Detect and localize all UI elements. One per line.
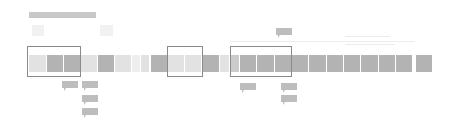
highlight-span-3 <box>230 46 292 77</box>
callout-top <box>276 28 292 35</box>
token-block <box>416 55 432 72</box>
token-block <box>141 55 149 72</box>
token-block <box>309 55 326 72</box>
token-block <box>344 55 360 72</box>
token-block <box>132 55 140 72</box>
faint-text-line-2 <box>345 44 395 45</box>
token-block <box>292 55 308 72</box>
callout-span1-d <box>82 108 98 115</box>
callout-span3-b <box>281 83 297 90</box>
title-bar <box>29 12 96 18</box>
token-block <box>396 55 412 72</box>
token-block <box>327 55 343 72</box>
ghost-square-right <box>100 25 113 36</box>
highlight-span-2 <box>167 46 203 77</box>
faint-text-line-1 <box>345 36 390 37</box>
callout-span3-c <box>281 95 297 102</box>
callout-span1-a <box>62 81 78 88</box>
callout-span1-c <box>82 95 98 102</box>
highlight-span-1 <box>27 46 81 77</box>
token-block <box>361 55 378 72</box>
callout-span1-b <box>82 81 98 88</box>
token-block <box>220 55 229 72</box>
faint-guide-line <box>230 41 415 42</box>
token-block <box>203 55 219 72</box>
token-block <box>115 55 131 72</box>
token-block <box>151 55 167 72</box>
ghost-square-left <box>32 25 44 36</box>
token-block <box>81 55 97 72</box>
callout-span3-a <box>240 83 256 90</box>
token-block <box>379 55 395 72</box>
token-block <box>98 55 114 72</box>
